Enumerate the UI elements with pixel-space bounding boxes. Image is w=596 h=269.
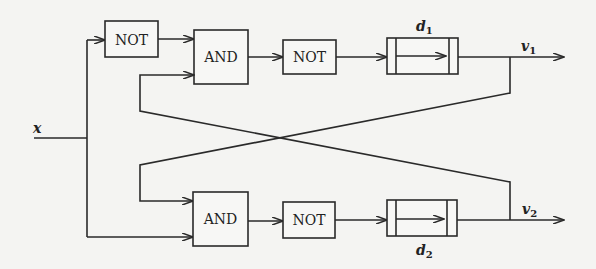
and-gate-bottom-label: AND [203,211,238,227]
delay-d1-label: d1 [416,18,433,36]
output-v2-label: v2 [522,201,537,219]
delay-d2 [387,200,457,236]
output-v1-label: v1 [521,38,536,56]
circuit-svg: x NOT AND NOT AND NOT d1 d2 v1 v2 [0,0,596,269]
and-gate-top-label: AND [203,49,238,65]
input-x-label: x [32,120,42,136]
not-gate-bottom-label: NOT [292,212,326,228]
not-gate-input-label: NOT [115,32,149,48]
delay-d2-label: d2 [416,242,433,260]
input-x-wire [34,40,193,237]
circuit-diagram: x NOT AND NOT AND NOT d1 d2 v1 v2 [0,0,596,269]
delay-d1 [387,38,458,74]
not-gate-top-label: NOT [293,49,327,65]
